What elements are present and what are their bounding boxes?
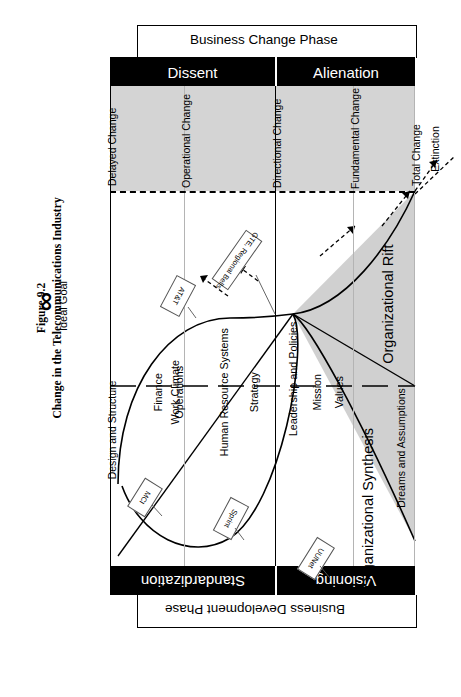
leader-uunet [320, 566, 330, 578]
leader-sprint [235, 528, 244, 540]
leader-gte [256, 275, 275, 314]
leader-mci [152, 505, 162, 516]
leader-att [188, 307, 196, 318]
callout-leaders [0, 0, 461, 697]
figure-canvas: Figure 9.2 Change in the Telecommunicati… [0, 0, 461, 697]
